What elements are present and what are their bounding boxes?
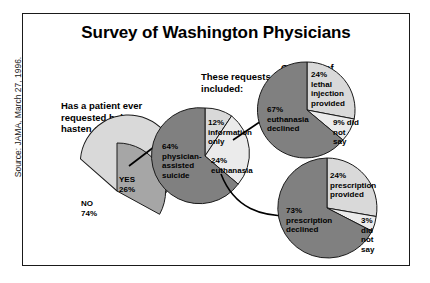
slice-label-prescription-did-not-say: 3% did not say (361, 216, 381, 254)
pie-euthanasia-outcome: 24% lethal injection provided 9% did not… (255, 58, 359, 162)
slice-label-lethal-injection: 24% lethal injection provided (311, 70, 345, 108)
slice-label-euthanasia-declined: 67% euthanasia declined (267, 105, 309, 134)
slice-label-prescription-provided: 24% prescription provided (330, 171, 376, 200)
slice-label-outcome-did-not-say: 9% did not say (333, 118, 359, 147)
slice-label-no: NO 74% (81, 199, 97, 218)
slice-label-pas: 64% physician- assisted suicide (162, 142, 202, 180)
page-title: Survey of Washington Physicians (23, 23, 409, 43)
slice-label-yes: YES 26% (119, 175, 135, 194)
chart-frame: Survey of Washington Physicians Has a pa… (22, 13, 410, 266)
slice-label-prescription-declined: 73% prescription declined (286, 206, 332, 235)
infographic-page: Source: JAMA, March 27, 1996. Survey of … (0, 0, 430, 283)
pie-prescription-outcome: 24% prescription provided 3% did not say… (273, 154, 381, 262)
